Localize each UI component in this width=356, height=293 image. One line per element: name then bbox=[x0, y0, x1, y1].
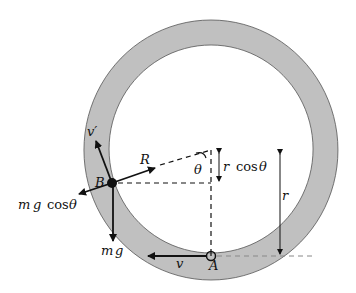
label-A: A bbox=[208, 258, 218, 273]
R-arrow bbox=[112, 168, 155, 183]
label-theta: θ bbox=[194, 162, 202, 177]
label-r: r bbox=[282, 188, 289, 203]
ring-diagram: v′ R B θ r cos θ m g cos θ r m g v A bbox=[0, 0, 356, 293]
label-B: B bbox=[94, 175, 105, 190]
label-r-cos-theta: r cos θ bbox=[223, 157, 267, 174]
point-B bbox=[107, 178, 117, 188]
label-v-prime: v′ bbox=[87, 124, 97, 139]
label-mg: m g bbox=[101, 241, 123, 258]
label-v: v bbox=[176, 256, 184, 271]
label-R: R bbox=[139, 152, 150, 167]
radius-dashed-line bbox=[160, 150, 211, 165]
label-mg-cos-theta: m g cos θ bbox=[18, 195, 77, 212]
